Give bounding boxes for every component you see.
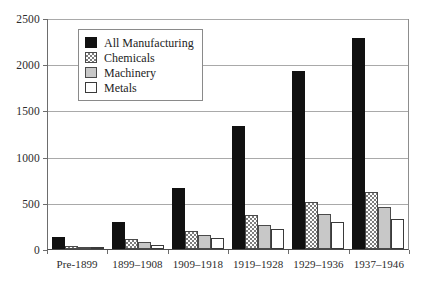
bar [391,219,404,249]
bar [352,38,365,249]
x-tick-mark [288,250,289,254]
y-tick-label: 500 [0,198,40,210]
x-tick-mark [107,250,108,254]
bar-group [288,19,348,249]
bar [292,71,305,249]
bar [172,188,185,249]
bar [91,247,104,249]
x-tick-mark [168,250,169,254]
legend-item: Metals [85,80,194,95]
legend-swatch [85,67,97,78]
bar [378,207,391,249]
bar [65,246,78,249]
x-tick-mark [349,250,350,254]
y-tick-mark [43,111,48,112]
legend-label: Chemicals [104,52,155,64]
bar [198,235,211,249]
x-tick-mark [47,250,48,254]
bar [271,229,284,249]
bar [151,245,164,249]
bar [365,192,378,249]
x-tick-label: 1937–1946 [339,258,419,270]
bar-chart: All ManufacturingChemicalsMachineryMetal… [0,0,421,283]
bar [185,231,198,249]
bar [112,222,125,249]
bar-group [348,19,408,249]
legend-item: Chemicals [85,50,194,65]
bar [138,242,151,249]
bar [232,126,245,249]
bar [331,222,344,249]
legend-item: Machinery [85,65,194,80]
legend-swatch [85,82,97,93]
legend-swatch [85,37,97,48]
legend-item: All Manufacturing [85,35,194,50]
y-tick-label: 1000 [0,152,40,164]
bar [245,215,258,249]
y-tick-label: 2500 [0,13,40,25]
y-tick-label: 0 [0,244,40,256]
bar [125,239,138,249]
bar [52,237,65,249]
bar-group [228,19,288,249]
y-tick-mark [43,65,48,66]
legend-swatch [85,52,97,63]
y-tick-mark [43,19,48,20]
y-tick-label: 2000 [0,59,40,71]
bar [305,202,318,249]
legend-label: All Manufacturing [104,37,194,49]
y-tick-mark [43,158,48,159]
bar [78,247,91,249]
chart-legend: All ManufacturingChemicalsMachineryMetal… [78,29,203,101]
bar [258,225,271,249]
x-tick-mark [409,250,410,254]
y-tick-label: 1500 [0,105,40,117]
legend-label: Machinery [104,67,156,79]
legend-label: Metals [104,82,137,94]
y-tick-mark [43,204,48,205]
bar [211,238,224,249]
bar [318,214,331,249]
x-tick-mark [228,250,229,254]
